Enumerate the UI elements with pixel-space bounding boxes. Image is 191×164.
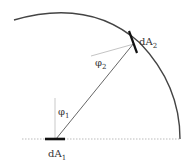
label-dA1: dA1 <box>48 148 66 162</box>
surface-element-dA2 <box>129 31 137 53</box>
hemisphere-arc <box>14 13 180 139</box>
normal-line-dA2 <box>91 44 134 56</box>
label-phi2: φ2 <box>95 57 106 71</box>
view-factor-diagram: dA2 dA1 φ1 φ2 <box>0 0 191 164</box>
label-phi1: φ1 <box>58 106 69 120</box>
label-dA2: dA2 <box>139 36 157 50</box>
